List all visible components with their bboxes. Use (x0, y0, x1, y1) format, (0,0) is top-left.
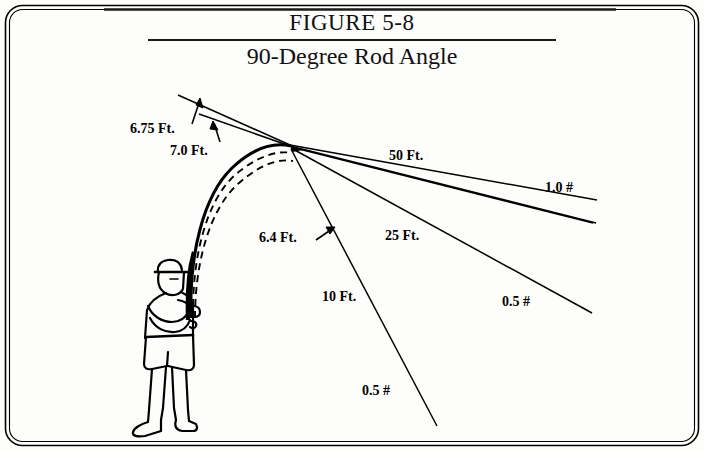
label-50-ft: 50 Ft. (389, 148, 423, 163)
figure-illustration: FIGURE 5-8 90-Degree Rod Angle (0, 0, 704, 451)
figure-page: FIGURE 5-8 90-Degree Rod Angle (0, 0, 704, 451)
label-6-75-ft: 6.75 Ft. (130, 121, 175, 136)
label-10-ft: 10 Ft. (322, 289, 356, 304)
label-weight-1-0: 1.0 # (545, 180, 573, 195)
label-7-0-ft: 7.0 Ft. (170, 143, 208, 158)
label-weight-0-5-lower: 0.5 # (362, 383, 390, 398)
label-6-4-ft: 6.4 Ft. (259, 230, 297, 245)
figure-number: FIGURE 5-8 (289, 10, 414, 35)
figure-caption: 90-Degree Rod Angle (247, 43, 458, 69)
label-25-ft: 25 Ft. (385, 228, 419, 243)
label-weight-0-5-upper: 0.5 # (502, 294, 530, 309)
angler-shorts-seam (167, 352, 168, 366)
